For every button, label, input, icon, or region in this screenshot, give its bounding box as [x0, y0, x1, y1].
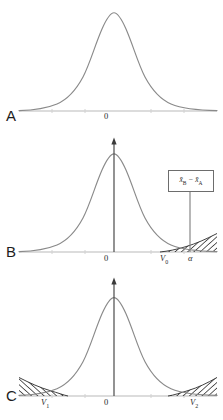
- panel-a-plot: [0, 0, 223, 132]
- panel-c-curve: [19, 298, 217, 396]
- panel-b-plot: [0, 132, 223, 272]
- mean-difference-callout: x̄B − x̄A: [168, 170, 214, 192]
- panel-c-rejection-region-right: [168, 378, 217, 397]
- panel-a-center-label: 0: [104, 112, 108, 121]
- panel-c-center-label: 0: [104, 398, 108, 407]
- panel-b-center-label: 0: [104, 254, 108, 263]
- panel-c-upper-critical-value-label: V2: [190, 398, 198, 411]
- panel-b-critical-value-label: V0: [160, 254, 168, 267]
- panel-b-curve: [19, 154, 217, 252]
- panel-c-lower-critical-value-label: V1: [41, 398, 49, 411]
- panel-a: A 0: [0, 0, 223, 132]
- panel-a-curve: [19, 13, 217, 111]
- panel-label-c: C: [6, 388, 17, 403]
- figure-root: { "figure": { "title": "", "panels": [ {…: [0, 0, 223, 420]
- panel-b-alpha-label: α: [188, 254, 192, 263]
- panel-c: C V1 0 V2: [0, 272, 223, 420]
- panel-label-a: A: [6, 108, 16, 123]
- panel-label-b: B: [6, 244, 16, 259]
- panel-c-center-arrow: [111, 278, 116, 397]
- mean-difference-label: x̄B − x̄A: [179, 176, 202, 187]
- panel-b: B x̄B − x̄A 0 V0 α: [0, 132, 223, 272]
